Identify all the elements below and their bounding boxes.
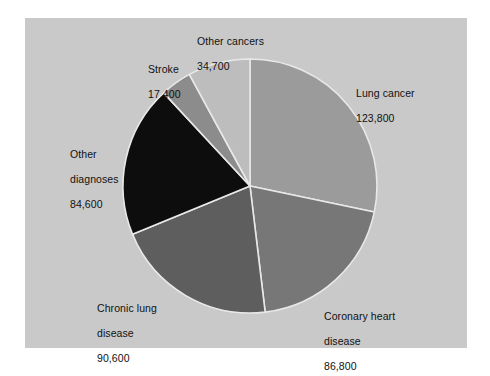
callout-stroke: Stroke 17,400 — [148, 50, 181, 113]
callout-label-other-diagnoses-line2: diagnoses — [70, 173, 119, 186]
callout-value-chronic: 90,600 — [97, 352, 157, 365]
callout-label-other-diagnoses-line1: Other — [70, 148, 119, 161]
callout-value-coronary: 86,800 — [324, 360, 395, 373]
callout-label-other-cancers: Other cancers — [197, 35, 264, 48]
callout-coronary-heart-disease: Coronary heart disease 86,800 — [324, 297, 395, 376]
callout-label-stroke: Stroke — [148, 63, 181, 76]
callout-label-lung-cancer: Lung cancer — [356, 87, 415, 100]
callout-label-chronic-line2: disease — [97, 327, 157, 340]
callout-value-other-cancers: 34,700 — [197, 60, 264, 73]
callout-label-chronic-line1: Chronic lung — [97, 302, 157, 315]
callout-label-coronary-line1: Coronary heart — [324, 310, 395, 323]
callout-other-diagnoses: Other diagnoses 84,600 — [70, 135, 119, 223]
callout-value-lung-cancer: 123,800 — [356, 112, 415, 125]
callout-value-stroke: 17,400 — [148, 88, 181, 101]
callout-other-cancers: Other cancers 34,700 — [197, 22, 264, 85]
callout-chronic-lung-disease: Chronic lung disease 90,600 — [97, 289, 157, 376]
callout-label-coronary-line2: disease — [324, 335, 395, 348]
callout-lung-cancer: Lung cancer 123,800 — [356, 74, 415, 137]
callout-value-other-diagnoses: 84,600 — [70, 198, 119, 211]
